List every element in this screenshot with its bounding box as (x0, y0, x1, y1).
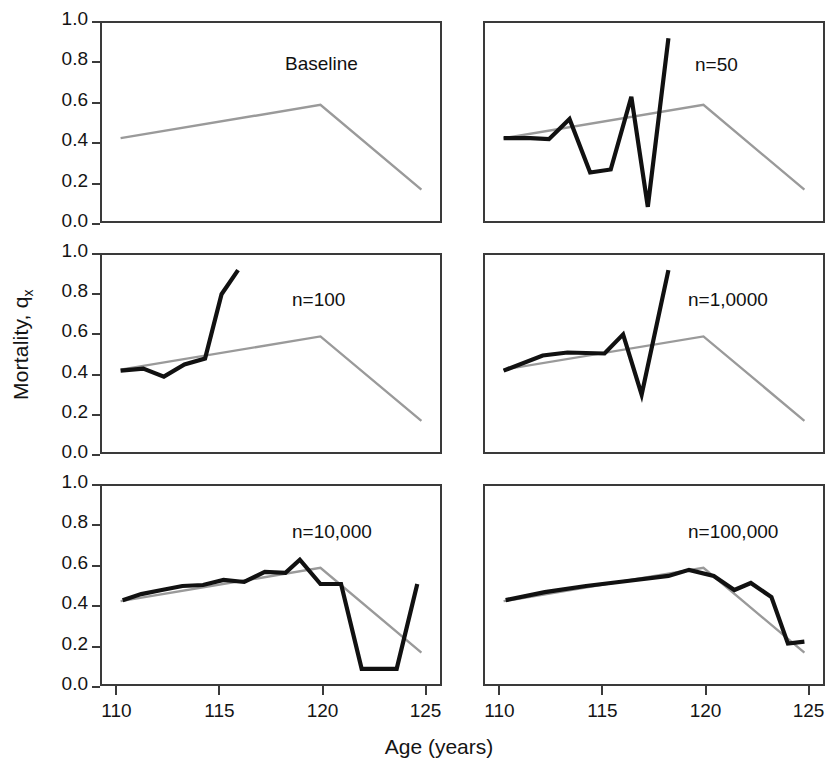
y-tick: 1.0 (38, 21, 100, 22)
y-tick: 1.0 (38, 253, 100, 254)
y-tick-label: 0.0 (40, 211, 88, 230)
y-tick-label: 0.4 (40, 130, 88, 149)
y-tick: 0.0 (38, 223, 100, 224)
panel-baseline: Baseline (100, 21, 442, 223)
y-tick: 0.8 (38, 293, 100, 294)
y-tick-mark (92, 646, 100, 648)
panel-plot-area (483, 484, 825, 686)
series-line-simulated (506, 570, 805, 644)
series-line-simulated (504, 38, 669, 207)
panel-plot-area (100, 484, 442, 686)
panel-label-n50: n=50 (695, 54, 738, 76)
y-tick-label: 0.2 (40, 171, 88, 190)
x-tick-label: 125 (396, 701, 456, 720)
x-tick-label: 115 (572, 701, 632, 720)
y-tick-label: 0.2 (40, 634, 88, 653)
panel-n10000-typo: n=1,0000 (483, 253, 825, 454)
x-tick-label: 110 (469, 701, 529, 720)
y-tick-label: 1.0 (40, 472, 88, 491)
y-tick-mark (92, 61, 100, 63)
y-tick: 0.8 (38, 61, 100, 62)
y-tick-mark (92, 484, 100, 486)
panel-n10000: n=10,000 (100, 484, 442, 686)
x-tick-mark (115, 686, 117, 695)
y-tick-mark (92, 565, 100, 567)
y-tick: 0.2 (38, 414, 100, 415)
y-axis-title: Mortality, qx (0, 0, 44, 690)
y-tick: 0.2 (38, 183, 100, 184)
y-tick: 0.4 (38, 374, 100, 375)
series-line-baseline (121, 336, 422, 420)
y-tick-mark (92, 333, 100, 335)
x-tick-label: 125 (779, 701, 837, 720)
panel-label-n10000: n=10,000 (292, 521, 372, 543)
panel-label-n10000-typo: n=1,0000 (688, 289, 768, 311)
y-tick: 0.6 (38, 565, 100, 566)
y-tick: 0.6 (38, 102, 100, 103)
y-tick-label: 0.0 (40, 674, 88, 693)
y-tick-label: 0.8 (40, 49, 88, 68)
panel-plot-area (100, 21, 442, 223)
y-tick-mark (92, 454, 100, 456)
x-tick-mark (218, 686, 220, 695)
panel-plot-area (483, 253, 825, 454)
y-tick-mark (92, 183, 100, 185)
panel-label-n100000: n=100,000 (688, 521, 778, 543)
panel-n50: n=50 (483, 21, 825, 223)
y-tick-label: 0.0 (40, 442, 88, 461)
y-tick: 0.0 (38, 454, 100, 455)
y-axis-title-text: Mortality, q (8, 297, 31, 401)
x-tick-mark (425, 686, 427, 695)
x-axis-title: Age (years) (44, 735, 834, 759)
y-tick: 0.2 (38, 646, 100, 647)
series-line-simulated (504, 270, 669, 395)
y-tick-label: 0.4 (40, 362, 88, 381)
x-tick-mark (601, 686, 603, 695)
y-tick-label: 0.8 (40, 512, 88, 531)
y-tick: 0.0 (38, 686, 100, 687)
x-tick-label: 120 (676, 701, 736, 720)
x-tick-mark (498, 686, 500, 695)
y-tick: 0.4 (38, 605, 100, 606)
y-tick: 1.0 (38, 484, 100, 485)
series-line-baseline (504, 568, 805, 653)
x-tick-label: 110 (86, 701, 146, 720)
y-tick-label: 0.6 (40, 553, 88, 572)
y-tick-mark (92, 293, 100, 295)
panel-plot-area (100, 253, 442, 454)
y-tick-mark (92, 253, 100, 255)
y-tick-mark (92, 686, 100, 688)
y-tick-label: 0.2 (40, 402, 88, 421)
series-line-baseline (121, 105, 422, 190)
y-tick-label: 1.0 (40, 241, 88, 260)
y-axis-title-subscript: x (20, 290, 36, 297)
y-tick-mark (92, 524, 100, 526)
y-tick-mark (92, 21, 100, 23)
panel-n100000: n=100,000 (483, 484, 825, 686)
x-tick-label: 115 (189, 701, 249, 720)
y-tick: 0.8 (38, 524, 100, 525)
y-tick-label: 1.0 (40, 9, 88, 28)
panel-label-baseline: Baseline (285, 53, 358, 75)
y-tick-label: 0.8 (40, 281, 88, 300)
y-tick-label: 0.6 (40, 90, 88, 109)
y-tick-mark (92, 223, 100, 225)
panel-plot-area (483, 21, 825, 223)
series-line-baseline (504, 336, 805, 420)
y-tick-mark (92, 414, 100, 416)
y-tick-mark (92, 142, 100, 144)
x-tick-label: 120 (293, 701, 353, 720)
y-tick: 0.4 (38, 142, 100, 143)
panel-n100: n=100 (100, 253, 442, 454)
x-tick-mark (808, 686, 810, 695)
y-tick-mark (92, 374, 100, 376)
panel-label-n100: n=100 (292, 289, 345, 311)
figure-root: Mortality, qx Age (years) Baselinen=50n=… (0, 0, 837, 779)
y-tick-label: 0.4 (40, 593, 88, 612)
x-tick-mark (705, 686, 707, 695)
y-tick-label: 0.6 (40, 321, 88, 340)
series-line-baseline (121, 568, 422, 653)
y-tick-mark (92, 605, 100, 607)
x-tick-mark (322, 686, 324, 695)
y-tick: 0.6 (38, 333, 100, 334)
